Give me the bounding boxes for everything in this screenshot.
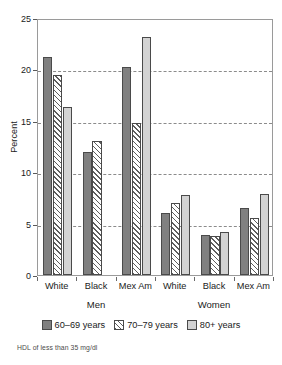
y-axis-tick-label: 10 xyxy=(0,168,31,178)
bar xyxy=(201,235,210,275)
bar xyxy=(53,75,62,275)
plot-inner xyxy=(38,20,272,275)
bar xyxy=(161,213,170,275)
bar xyxy=(43,57,52,275)
chart-legend: 60–69 years70–79 years80+ years xyxy=(0,320,282,330)
bar xyxy=(210,236,219,275)
legend-label: 70–79 years xyxy=(127,320,178,330)
x-axis-tick-mark xyxy=(273,277,274,281)
bar xyxy=(240,208,249,275)
bar-chart: Percent 0510152025 WhiteBlackMex AmWhite… xyxy=(0,0,282,365)
x-axis-tick-mark xyxy=(116,277,117,281)
x-axis-tick-mark xyxy=(37,277,38,281)
bar-group xyxy=(77,20,116,275)
y-axis-title: Percent xyxy=(9,97,19,177)
y-axis-tick-label: 20 xyxy=(0,65,31,75)
bar xyxy=(260,194,269,275)
y-axis-tick-label: 5 xyxy=(0,220,31,230)
bar xyxy=(181,195,190,275)
bar-group xyxy=(117,20,156,275)
bar-group xyxy=(195,20,234,275)
bar xyxy=(220,232,229,275)
legend-item: 80+ years xyxy=(187,320,241,330)
x-axis-group-label: Men xyxy=(87,299,105,310)
x-axis-tick-mark xyxy=(76,277,77,281)
y-axis-tick-label: 25 xyxy=(0,14,31,24)
x-axis-category-label: Black xyxy=(203,281,225,291)
legend-label: 60–69 years xyxy=(55,320,106,330)
bar xyxy=(122,67,131,275)
bar xyxy=(171,203,180,275)
chart-footnote: HDL of less than 35 mg/dl xyxy=(17,344,97,351)
legend-label: 80+ years xyxy=(200,320,241,330)
y-axis-tick-label: 0 xyxy=(0,271,31,281)
bar xyxy=(83,152,92,275)
bar-group xyxy=(38,20,77,275)
x-axis-category-label: Black xyxy=(85,281,107,291)
plot-area xyxy=(37,19,273,276)
legend-item: 70–79 years xyxy=(114,320,178,330)
legend-item: 60–69 years xyxy=(42,320,106,330)
legend-swatch-icon xyxy=(187,320,197,330)
x-axis-category-label: Mex Am xyxy=(237,281,270,291)
x-axis-tick-mark xyxy=(155,277,156,281)
x-axis-group-label: Women xyxy=(198,299,231,310)
bar xyxy=(63,107,72,275)
y-axis-tick-label: 15 xyxy=(0,117,31,127)
bar-group xyxy=(156,20,195,275)
x-axis-category-label: White xyxy=(45,281,69,291)
bar xyxy=(92,141,101,275)
x-axis-category-label: Mex Am xyxy=(119,281,152,291)
legend-swatch-icon xyxy=(42,320,52,330)
bar xyxy=(250,218,259,275)
x-axis-tick-mark xyxy=(194,277,195,281)
x-axis-tick-mark xyxy=(234,277,235,281)
bar xyxy=(132,123,141,275)
legend-swatch-icon xyxy=(114,320,124,330)
x-axis-category-label: White xyxy=(163,281,187,291)
bar xyxy=(142,37,151,275)
bar-group xyxy=(235,20,274,275)
